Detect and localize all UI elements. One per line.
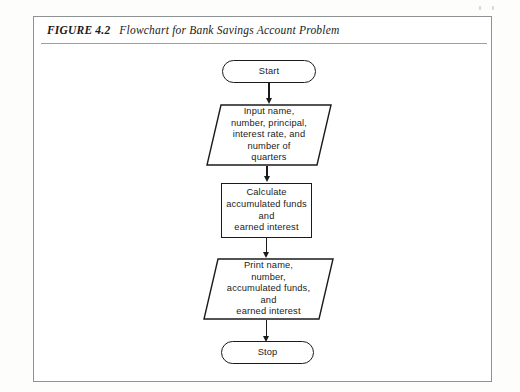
scanned-page: FIGURE 4.2Flowchart for Bank Savings Acc…	[0, 0, 520, 392]
figure-caption: FIGURE 4.2Flowchart for Bank Savings Acc…	[47, 24, 340, 36]
scan-speckle	[492, 6, 494, 10]
figure-frame	[33, 16, 492, 382]
figure-title: Flowchart for Bank Savings Account Probl…	[119, 24, 339, 36]
caption-divider	[41, 43, 487, 44]
scan-speckle	[479, 6, 481, 10]
figure-label: FIGURE 4.2	[47, 24, 110, 36]
